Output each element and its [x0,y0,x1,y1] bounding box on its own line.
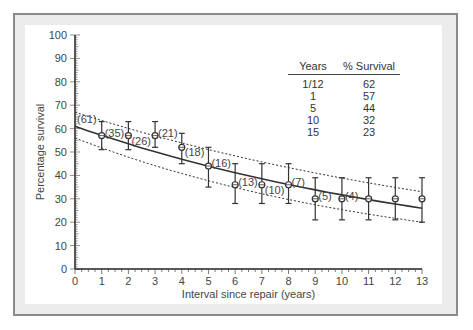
x-tick-label: 6 [232,275,238,287]
header-years: Years [288,60,338,72]
y-axis-label: Percentage survival [34,104,46,201]
point-label: (13) [238,176,258,188]
table-row: 1 57 [288,90,400,102]
x-tick-label: 5 [205,275,211,287]
x-tick-label: 13 [416,275,428,287]
cell-survival: 57 [338,90,400,102]
point-label: (18) [185,146,205,158]
x-axis-label: Interval since repair (years) [182,288,315,300]
point-label: (35) [105,127,125,139]
survival-summary-table: Years % Survival 1/12 62 1 57 5 44 10 32… [288,60,400,138]
x-tick-label: 1 [99,275,105,287]
cell-survival: 23 [338,126,400,138]
point-label: (4) [345,190,358,202]
y-tick-label: 80 [55,76,67,88]
table-row: 5 44 [288,102,400,114]
cell-years: 10 [288,114,338,126]
y-tick-label: 10 [55,240,67,252]
table-row: 15 23 [288,126,400,138]
point-label: (26) [131,135,151,147]
point-label: (7) [292,176,305,188]
x-tick-label: 2 [125,275,131,287]
y-tick-label: 100 [49,29,67,41]
table-header: Years % Survival [288,60,400,75]
cell-survival: 62 [338,78,400,90]
x-tick-label: 10 [336,275,348,287]
point-label: (61) [77,113,97,125]
y-tick-label: 20 [55,216,67,228]
y-tick-label: 50 [55,146,67,158]
x-tick-label: 11 [363,275,374,287]
x-tick-label: 3 [152,275,158,287]
cell-years: 1/12 [288,78,338,90]
y-tick-label: 70 [55,99,67,111]
x-tick-label: 8 [285,275,291,287]
cell-survival: 32 [338,114,400,126]
y-tick-label: 40 [55,169,67,181]
point-label: (10) [265,184,285,196]
x-tick-label: 7 [259,275,265,287]
cell-years: 1 [288,90,338,102]
cell-survival: 44 [338,102,400,114]
x-tick-label: 4 [179,275,185,287]
cell-years: 15 [288,126,338,138]
table-row: 10 32 [288,114,400,126]
table-row: 1/12 62 [288,78,400,90]
point-label: (21) [158,127,178,139]
x-tick-label: 0 [72,275,78,287]
point-label: (5) [318,190,331,202]
cell-years: 5 [288,102,338,114]
x-tick-label: 9 [312,275,318,287]
y-tick-label: 0 [61,263,67,275]
y-tick-label: 90 [55,52,67,64]
header-survival: % Survival [338,60,400,72]
y-tick-label: 30 [55,193,67,205]
point-label: (16) [211,157,231,169]
y-tick-label: 60 [55,123,67,135]
x-tick-label: 12 [389,275,401,287]
survival-chart: 0102030405060708090100012345678910111213… [0,0,473,330]
